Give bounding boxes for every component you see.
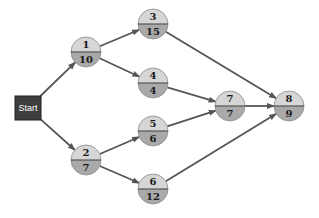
start-node[interactable]: Start [15,96,41,120]
node-4[interactable]: 44 [138,68,168,98]
node-label: 2 [83,147,90,158]
node-duration: 4 [150,85,157,96]
node-label: 4 [150,70,157,81]
node-label: 6 [150,176,157,187]
node-label: 7 [227,93,234,104]
node-3[interactable]: 315 [138,9,168,39]
node-duration: 10 [79,54,93,65]
edge-1-to-4 [100,58,140,76]
start-label: Start [18,103,38,113]
network-diagram: Start 1102731544566127789 [0,0,319,218]
edge-start-to-1 [40,62,75,96]
node-7[interactable]: 77 [215,91,245,121]
edge-1-to-3 [100,30,139,46]
node-duration: 12 [146,191,160,202]
edge-2-to-5 [100,137,139,154]
node-5[interactable]: 56 [138,116,168,146]
node-label: 3 [150,11,157,22]
node-8[interactable]: 89 [274,91,304,121]
edge-4-to-7 [167,87,215,101]
node-duration: 9 [286,108,293,119]
edge-2-to-6 [100,166,139,183]
node-label: 1 [83,39,90,50]
node-2[interactable]: 27 [71,145,101,175]
node-label: 5 [150,118,157,129]
edge-start-to-2 [41,120,75,150]
node-duration: 7 [83,162,90,173]
node-1[interactable]: 110 [71,37,101,67]
node-6[interactable]: 612 [138,174,168,204]
node-duration: 6 [150,133,157,144]
edge-6-to-8 [166,114,276,181]
node-duration: 7 [227,108,234,119]
node-label: 8 [286,93,293,104]
edge-3-to-8 [166,32,276,99]
node-duration: 15 [146,26,160,37]
edge-5-to-7 [167,111,215,127]
